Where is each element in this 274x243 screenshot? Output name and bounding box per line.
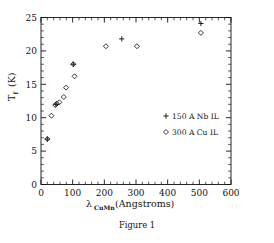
x-axis-tick-labels: 0100200300400500600	[38, 188, 240, 198]
x-tick-label: 400	[159, 188, 176, 198]
x-tick-label: 300	[127, 188, 144, 198]
data-point-plus	[119, 36, 124, 41]
y-axis-tick-labels: 0510152025	[26, 13, 38, 190]
figure-container: 0100200300400500600 0510152025 λ CuMn (A…	[0, 0, 274, 243]
y-tick-label: 10	[26, 113, 38, 123]
y-axis-major-ticks	[41, 18, 231, 185]
data-point-markers	[45, 21, 204, 142]
data-point-plus	[45, 136, 50, 141]
y-tick-label: 20	[26, 46, 38, 56]
legend-label-cu: 300 A Cu IL	[172, 128, 218, 137]
x-axis-major-ticks	[41, 18, 231, 185]
y-tick-label: 15	[26, 80, 38, 90]
y-axis-title: T f (K)	[6, 72, 19, 101]
x-axis-minor-ticks	[47, 18, 224, 185]
y-axis-units: (K)	[6, 72, 17, 87]
y-tick-label: 0	[31, 180, 37, 190]
y-axis-subscript: f	[12, 92, 19, 95]
y-tick-label: 25	[26, 13, 38, 23]
data-point-diamond	[64, 85, 69, 90]
data-point-diamond	[198, 30, 203, 35]
x-tick-label: 500	[191, 188, 208, 198]
scatter-plot-svg: 0100200300400500600 0510152025 λ CuMn (A…	[0, 0, 274, 243]
x-axis-title: λ CuMn (Angstroms)	[86, 198, 174, 211]
x-axis-units: (Angstroms)	[115, 198, 174, 209]
y-tick-label: 5	[31, 146, 37, 156]
legend-marker-plus	[163, 113, 168, 118]
x-tick-label: 200	[96, 188, 113, 198]
data-point-diamond	[61, 94, 66, 99]
data-point-diamond	[72, 74, 77, 79]
legend-marker-diamond	[164, 130, 169, 135]
data-point-diamond	[103, 44, 108, 49]
x-tick-label: 0	[38, 188, 44, 198]
legend-markers	[163, 113, 168, 134]
data-point-diamond	[49, 113, 54, 118]
legend-label-nb: 150 A Nb IL	[172, 112, 219, 121]
x-tick-label: 600	[222, 188, 239, 198]
x-tick-label: 100	[64, 188, 81, 198]
data-point-plus	[71, 62, 76, 67]
x-axis-subscript: CuMn	[94, 204, 115, 211]
plot-frame	[41, 18, 231, 185]
x-axis-lambda-symbol: λ	[86, 198, 92, 209]
data-point-diamond	[134, 44, 139, 49]
figure-caption: Figure 1	[119, 220, 155, 230]
